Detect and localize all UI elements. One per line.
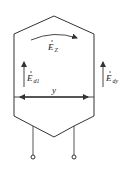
- terminal-left: [31, 155, 35, 159]
- span-label: y: [51, 85, 56, 95]
- svg-text:E: E: [47, 42, 54, 52]
- svg-text:E: E: [26, 73, 33, 83]
- terminal-right: [72, 155, 76, 159]
- winding-diagram: E Z E d1 E dy y: [0, 0, 128, 173]
- svg-text:E: E: [105, 73, 112, 83]
- coil-bottom: [14, 116, 94, 137]
- svg-text:d1: d1: [34, 78, 40, 84]
- curved-arrow-icon: [31, 34, 77, 40]
- label-edy: E dy: [105, 71, 119, 84]
- coil-outline: [14, 16, 94, 116]
- svg-text:dy: dy: [113, 78, 119, 84]
- svg-text:Z: Z: [55, 47, 59, 53]
- label-ed1: E d1: [26, 71, 40, 84]
- label-ez: E Z: [47, 40, 59, 53]
